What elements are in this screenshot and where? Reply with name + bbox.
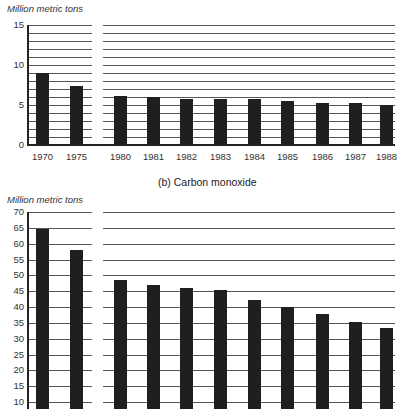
gridline [103,275,395,276]
bar-1970 [36,229,49,409]
gridline [103,212,395,213]
bar-1981 [147,97,160,145]
y-tick-label: 35 [4,317,24,328]
gridline [103,89,395,90]
y-tick-label: 70 [4,206,24,217]
bar-1982 [180,99,193,145]
y-axis-line [27,212,29,409]
y-axis-line [27,25,29,145]
gridline [103,57,395,58]
y-tick-label: 55 [4,254,24,265]
gridline [103,49,395,50]
bar-1982 [180,288,193,409]
y-tick-label: 0 [4,139,24,150]
y-tick-label: 40 [4,301,24,312]
y-tick-label: 60 [4,238,24,249]
bar-1975 [70,250,83,409]
gridline [28,65,92,66]
bar-1988 [380,105,393,145]
x-tick-label: 1985 [268,151,308,162]
y-tick-label: 15 [4,19,24,30]
bar-1988 [380,328,393,409]
y-tick-label: 15 [4,380,24,391]
gridline [103,33,395,34]
bar-1970 [36,73,49,145]
y-tick-label: 20 [4,364,24,375]
x-tick-label: 1975 [57,151,97,162]
y-tick-label: 10 [4,59,24,70]
bar-1986 [316,314,329,409]
gridline [103,41,395,42]
gridline [103,228,395,229]
bottom-chart-title: (b) Carbon monoxide [158,176,257,188]
gridline [103,81,395,82]
gridline [28,41,92,42]
gridline [28,212,92,213]
top-chart-y-axis-label: Million metric tons [7,3,83,14]
gridline [28,57,92,58]
gridline [103,25,395,26]
bar-1980 [114,96,127,145]
bar-1981 [147,285,160,409]
y-tick-label: 25 [4,349,24,360]
y-tick-label: 65 [4,222,24,233]
bar-1975 [70,86,83,145]
gridline [103,244,395,245]
x-axis-line [27,144,395,146]
bar-1984 [248,300,261,409]
y-tick-label: 30 [4,333,24,344]
y-tick-label: 50 [4,269,24,280]
bar-1985 [281,307,294,409]
x-tick-label: 1988 [367,151,407,162]
bar-1983 [214,290,227,409]
gridline [28,25,92,26]
bottom-chart-y-axis-label: Million metric tons [7,194,83,205]
bar-1987 [349,103,362,145]
bar-1986 [316,103,329,145]
bar-1980 [114,280,127,409]
gridline [103,73,395,74]
gridline [28,33,92,34]
bar-1987 [349,322,362,409]
y-tick-label: 10 [4,396,24,407]
bar-1983 [214,99,227,145]
gridline [103,260,395,261]
gridline [28,49,92,50]
y-tick-label: 5 [4,99,24,110]
gridline [103,65,395,66]
bar-1985 [281,101,294,145]
bar-1984 [248,99,261,145]
y-tick-label: 45 [4,285,24,296]
